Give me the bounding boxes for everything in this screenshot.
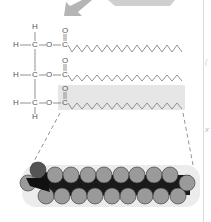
row1-carbonyl-c: C [62, 41, 68, 49]
row3-c: C [32, 99, 38, 107]
row3-carbonyl-c: C [62, 99, 68, 107]
row3-h: H [13, 99, 19, 107]
arrow-icon [64, 0, 175, 16]
row1-h: H [13, 41, 19, 49]
row2-o: O [46, 71, 52, 79]
row1-o: O [46, 41, 52, 49]
row2-c: C [32, 71, 38, 79]
bottom-h-label: H [32, 113, 38, 121]
row1-carbonyl-o: O [62, 27, 68, 35]
row2-carbonyl-o: O [62, 57, 68, 65]
triglyceride-diagram [0, 0, 211, 222]
row2-carbonyl-c: C [62, 71, 68, 79]
row1-c: C [32, 41, 38, 49]
row2-h: H [13, 71, 19, 79]
row3-o: O [46, 99, 52, 107]
space-filling-model [20, 162, 200, 207]
top-h-label: H [32, 23, 38, 31]
row3-carbonyl-o: O [62, 85, 68, 93]
